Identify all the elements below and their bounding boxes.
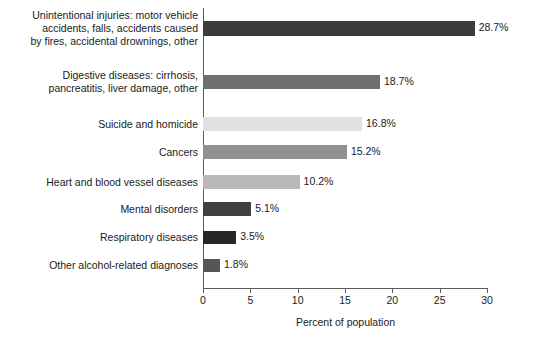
category-label: Mental disorders <box>2 203 203 216</box>
category-label-line: Suicide and homicide <box>2 118 198 131</box>
x-tick-label: 5 <box>247 294 253 306</box>
bar-value-label: 1.8% <box>224 258 248 270</box>
x-axis-title: Percent of population <box>203 316 488 328</box>
x-tick <box>487 288 488 293</box>
bar-value-label: 10.2% <box>304 175 334 187</box>
bar <box>203 145 347 159</box>
bar-value-label: 15.2% <box>351 145 381 157</box>
category-label: Digestive diseases: cirrhosis,pancreatit… <box>2 69 203 95</box>
x-tick-label: 30 <box>481 294 493 306</box>
x-tick-label: 10 <box>292 294 304 306</box>
category-label-line: pancreatitis, liver damage, other <box>2 82 198 95</box>
x-tick <box>345 288 346 293</box>
category-label: Cancers <box>2 146 203 159</box>
x-tick-label: 20 <box>386 294 398 306</box>
bar <box>203 175 300 189</box>
bar-value-label: 18.7% <box>384 75 414 87</box>
category-label-line: accidents, falls, accidents caused <box>2 22 198 35</box>
category-label: Heart and blood vessel diseases <box>2 176 203 189</box>
x-tick-label: 15 <box>339 294 351 306</box>
x-tick <box>298 288 299 293</box>
category-label-line: Respiratory diseases <box>2 231 198 244</box>
x-tick <box>250 288 251 293</box>
category-label-line: Unintentional injuries: motor vehicle <box>2 9 198 22</box>
category-label: Other alcohol-related diagnoses <box>2 259 203 272</box>
bar-value-label: 5.1% <box>255 202 279 214</box>
bar-chart: 051015202530 Unintentional injuries: mot… <box>0 0 541 348</box>
x-tick-label: 25 <box>434 294 446 306</box>
bar <box>203 117 362 131</box>
category-label: Unintentional injuries: motor vehicleacc… <box>2 9 203 48</box>
chart-page: 051015202530 Unintentional injuries: mot… <box>0 0 541 348</box>
bar <box>203 21 475 36</box>
category-label-line: Cancers <box>2 146 198 159</box>
x-tick-label: 0 <box>200 294 206 306</box>
category-label-line: Other alcohol-related diagnoses <box>2 259 198 272</box>
x-tick <box>440 288 441 293</box>
bar <box>203 259 220 272</box>
category-label-line: by fires, accidental drownings, other <box>2 35 198 48</box>
category-label-line: Mental disorders <box>2 203 198 216</box>
x-tick <box>203 288 204 293</box>
category-label: Suicide and homicide <box>2 118 203 131</box>
bar-value-label: 16.8% <box>366 117 396 129</box>
category-label-line: Digestive diseases: cirrhosis, <box>2 69 198 82</box>
bar-value-label: 28.7% <box>479 21 509 33</box>
bar-value-label: 3.5% <box>240 230 264 242</box>
category-label: Respiratory diseases <box>2 231 203 244</box>
bar <box>203 231 236 244</box>
bar <box>203 75 380 89</box>
x-tick <box>392 288 393 293</box>
bar <box>203 202 251 216</box>
category-label-line: Heart and blood vessel diseases <box>2 176 198 189</box>
